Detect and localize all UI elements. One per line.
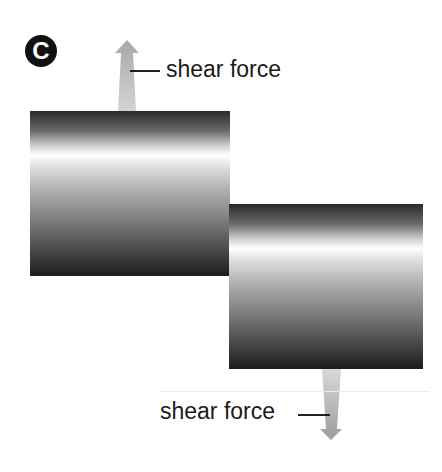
up-arrow-icon: [114, 40, 140, 112]
top-shear-force-label: shear force: [166, 56, 281, 83]
bottom-shear-force-label: shear force: [160, 398, 275, 425]
down-arrow-icon: [318, 369, 344, 441]
panel-label-badge: C: [25, 35, 57, 67]
bottom-leader-line: [298, 414, 330, 416]
upper-block: [30, 111, 230, 276]
faint-guide-line: [160, 391, 430, 392]
lower-block: [229, 204, 423, 369]
top-leader-line: [130, 70, 160, 72]
